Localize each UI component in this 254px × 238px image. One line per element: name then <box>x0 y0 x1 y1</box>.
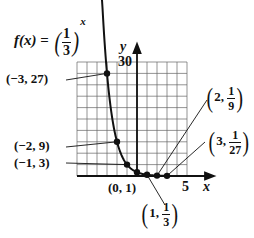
right-paren: ) <box>72 26 79 58</box>
data-point <box>154 172 160 178</box>
point-label-1: (1, 13) <box>140 200 180 228</box>
function-title: f(x) = (13)x <box>14 26 86 58</box>
x-tick-5: 5 <box>182 180 189 194</box>
y-axis-arrow-icon <box>134 44 141 53</box>
data-point <box>164 173 170 179</box>
data-point <box>144 172 150 178</box>
point-label-neg1: (−1, 3) <box>14 156 50 169</box>
x-axis-label: x <box>203 180 210 194</box>
title-fraction: 13 <box>62 27 71 58</box>
point-label-neg2: (−2, 9) <box>14 139 50 152</box>
y-tick-30: 30 <box>118 55 132 69</box>
y-axis-label: y <box>120 40 126 54</box>
data-point <box>114 139 120 145</box>
data-point <box>124 161 130 167</box>
point-label-neg3: (−3, 27) <box>6 72 48 85</box>
data-point <box>104 70 110 76</box>
point-label-2: (2, 19) <box>205 84 245 112</box>
axes <box>77 44 214 180</box>
point-label-0: (0, 1) <box>108 181 136 194</box>
grid <box>77 62 187 176</box>
title-exponent: x <box>80 15 86 27</box>
data-point <box>134 169 140 175</box>
title-equals: = <box>40 32 49 48</box>
title-lhs: f(x) <box>14 32 37 48</box>
left-paren: ( <box>54 26 61 58</box>
point-label-3: (3, 127) <box>207 128 251 156</box>
